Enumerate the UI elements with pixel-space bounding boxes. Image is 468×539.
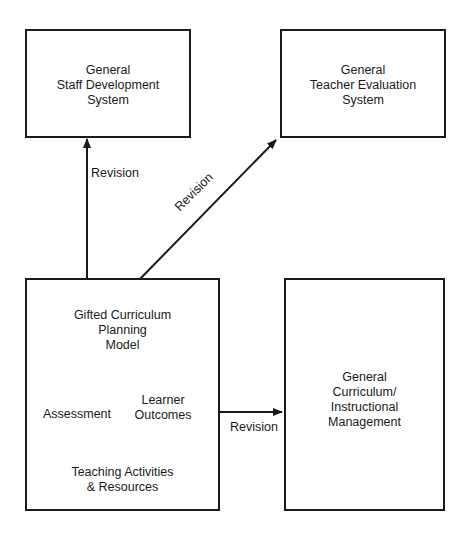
teacher-evaluation-label: General Teacher Evaluation System [280, 63, 446, 108]
assessment-label: Assessment [40, 407, 114, 422]
edge-label-general-curriculum: Revision [230, 420, 278, 435]
arrow-to-teacher-evaluation [139, 140, 276, 280]
gifted-model-label: Gifted Curriculum Planning Model [25, 308, 220, 353]
edge-label-staff-development: Revision [91, 166, 139, 181]
learner-outcomes-label: Learner Outcomes [130, 393, 196, 423]
general-curriculum-label: General Curriculum/ Instructional Manage… [284, 370, 445, 430]
teaching-activities-label: Teaching Activities & Resources [55, 465, 190, 495]
staff-development-label: General Staff Development System [25, 63, 191, 108]
